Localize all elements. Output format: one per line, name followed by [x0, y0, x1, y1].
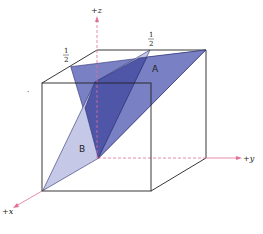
stray-mark: ·: [27, 87, 30, 96]
z-axis-label: +z: [91, 6, 103, 15]
svg-text:1: 1: [64, 47, 68, 55]
svg-text:2: 2: [149, 40, 153, 48]
intercept-right-fraction: 1 2: [148, 31, 154, 48]
y-axis-label: +y: [243, 154, 255, 163]
plane-a-label: A: [152, 64, 159, 74]
plane-b-label: B: [79, 144, 85, 154]
unit-cube-diagram: +z +y +x A B 1 2 1 2 ·: [0, 0, 263, 234]
x-axis: [13, 191, 42, 208]
y-axis: [98, 156, 242, 160]
x-axis-label: +x: [2, 207, 14, 216]
svg-text:1: 1: [149, 31, 153, 39]
intercept-left-fraction: 1 2: [63, 47, 69, 64]
svg-text:2: 2: [64, 56, 68, 64]
